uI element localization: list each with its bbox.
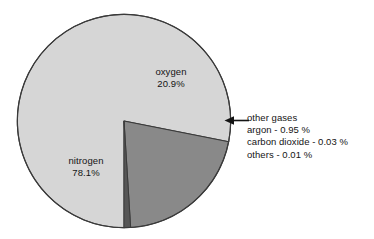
callout-line-carbon-dioxide: carbon dioxide - 0.03 %	[247, 136, 373, 148]
slice-label-oxygen-name: oxygen	[155, 66, 186, 77]
callout-title: other gases	[247, 112, 373, 124]
slice-label-oxygen-percent: 20.9%	[136, 78, 206, 90]
callout-line-argon: argon - 0.95 %	[247, 124, 373, 136]
pie-chart: oxygen 20.9% nitrogen 78.1% other gases …	[0, 0, 374, 239]
slice-label-nitrogen-name: nitrogen	[68, 155, 103, 166]
slice-label-nitrogen-percent: 78.1%	[50, 167, 122, 179]
callout-line-others: others - 0.01 %	[247, 149, 373, 161]
slice-label-oxygen: oxygen 20.9%	[136, 66, 206, 89]
other-gases-callout: other gases argon - 0.95 % carbon dioxid…	[247, 112, 373, 161]
slice-label-nitrogen: nitrogen 78.1%	[50, 155, 122, 178]
